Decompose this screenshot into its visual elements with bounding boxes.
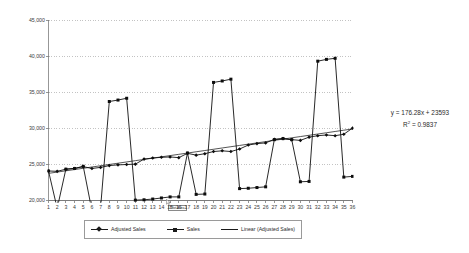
y-axis-tick-label: 40,000 <box>15 54 45 59</box>
chart-legend: Adjusted Sales Sales Linear (Adjusted Sa… <box>84 220 302 239</box>
y-axis-tick-label: 25,000 <box>15 162 45 167</box>
y-axis-tick-label: 30,000 <box>15 126 45 131</box>
legend-item-label: Linear (Adjusted Sales) <box>241 227 295 232</box>
legend-item-linear-adjusted-sales[interactable]: Linear (Adjusted Sales) <box>221 226 295 233</box>
diamond-marker-icon <box>91 226 108 233</box>
square-marker-icon <box>167 226 184 233</box>
legend-item-label: Sales <box>187 227 200 232</box>
r-squared-text: R2 = 0.9837 <box>374 118 466 130</box>
legend-item-adjusted-sales[interactable]: Adjusted Sales <box>91 226 146 233</box>
r-squared-value: = 0.9837 <box>410 121 437 128</box>
legend-item-sales[interactable]: Sales <box>167 226 200 233</box>
y-axis-tick-label: 45,000 <box>15 18 45 23</box>
legend-item-label: Adjusted Sales <box>111 227 146 232</box>
line-marker-icon <box>221 226 238 233</box>
y-axis-tick-label: 20,000 <box>15 198 45 203</box>
y-axis-tick-label: 35,000 <box>15 90 45 95</box>
trendline-equation-annotation: y = 176.28x + 23593 R2 = 0.9837 <box>374 108 466 129</box>
x-axis-tick-label: 36 <box>347 205 359 210</box>
equation-text: y = 176.28x + 23593 <box>374 108 466 118</box>
sales-chart: y = 176.28x + 23593 R2 = 0.9837 Plot Are… <box>0 0 469 253</box>
